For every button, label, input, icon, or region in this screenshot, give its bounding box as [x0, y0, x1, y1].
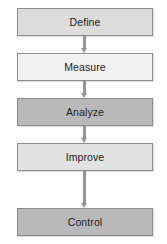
flow-step-label: Measure — [64, 62, 106, 73]
flow-step-label: Improve — [66, 152, 105, 163]
flow-step-analyze[interactable]: Analyze — [17, 98, 153, 126]
arrow-define-to-measure — [83, 36, 86, 53]
flow-step-define[interactable]: Define — [17, 8, 153, 36]
flow-step-measure[interactable]: Measure — [17, 53, 153, 81]
arrow-shaft — [83, 36, 86, 48]
arrow-shaft — [83, 126, 86, 138]
flow-step-label: Define — [70, 17, 101, 28]
arrow-measure-to-analyze — [83, 81, 86, 98]
flow-step-control[interactable]: Control — [17, 208, 153, 236]
arrow-improve-to-control — [83, 171, 86, 208]
arrow-analyze-to-improve — [83, 126, 86, 143]
flow-step-label: Analyze — [66, 107, 104, 118]
arrow-shaft — [83, 171, 86, 203]
flow-step-improve[interactable]: Improve — [17, 143, 153, 171]
flow-step-label: Control — [68, 217, 103, 228]
dmaic-flowchart: Define Measure Analyze Improve Control — [0, 0, 167, 244]
arrow-shaft — [83, 81, 86, 93]
